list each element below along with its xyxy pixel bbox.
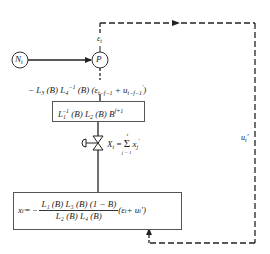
valve-eq: = xyxy=(114,139,124,149)
b2-numerator: L₁ (B) L₃ (B) (1 − B) xyxy=(39,200,118,211)
feedback-top-arrow-icon xyxy=(172,20,180,26)
ff-b2: (B) (ε xyxy=(75,85,98,95)
epsilon-subscript: t xyxy=(100,38,102,44)
u-prime: ′ xyxy=(247,133,249,142)
valve-equation: Xt = Σ t j = 1 xj′ xyxy=(107,138,139,150)
b2-tail-close: ′) xyxy=(141,206,146,215)
b1-b-sup: f+1 xyxy=(115,108,124,114)
valve-sigma: Σ xyxy=(124,137,130,149)
valve-sigma-upper: t xyxy=(127,132,128,137)
ff-plus: + u xyxy=(112,85,127,95)
valve-term-prime: ′ xyxy=(138,138,139,144)
b2-denominator: L₂ (B) L₄ (B) xyxy=(39,211,118,221)
node-n-subscript: t xyxy=(21,59,23,65)
controller-box: L1−1 (B) L2 (B) Bf+1 xyxy=(52,101,145,122)
ff-prefix: − L xyxy=(28,85,41,95)
b1-l1-sub: 1 xyxy=(63,114,66,120)
ff-u-sub: t−f−1 xyxy=(127,90,141,96)
b1-mid: (B) L xyxy=(69,109,90,119)
b2-eq: = − xyxy=(25,206,37,215)
node-n-label: Nt xyxy=(15,55,23,65)
process-box: xt′ = − L₁ (B) L₃ (B) (1 − B) L₂ (B) L₄ … xyxy=(13,192,182,230)
controller-equation: L1−1 (B) L2 (B) Bf+1 xyxy=(58,108,123,120)
ff-l4-sub: 4 xyxy=(65,90,68,96)
b2-fraction: L₁ (B) L₃ (B) (1 − B) L₂ (B) L₄ (B) xyxy=(39,200,118,221)
u-feedback-label: ut′ xyxy=(241,134,248,143)
b1-tail: (B) B xyxy=(93,109,115,119)
process-equation: xt′ = − L₁ (B) L₃ (B) (1 − B) L₂ (B) L₄ … xyxy=(18,200,146,221)
node-p-label: P xyxy=(96,55,102,64)
ff-b1: (B) L xyxy=(44,85,65,95)
valve-sigma-lower: j = 1 xyxy=(122,150,132,155)
epsilon-label: εt xyxy=(97,35,102,44)
ff-eps-sub: t−f−1 xyxy=(98,90,112,96)
node-p-symbol: P xyxy=(96,54,102,64)
feedforward-equation: − L3 (B) L4−1 (B) (εt−f−1 + ut−f−1′) xyxy=(28,84,146,96)
b2-tail-plus: + u xyxy=(126,206,139,215)
valve-term-sub: j xyxy=(136,144,138,150)
ff-close: ) xyxy=(143,85,146,95)
valve-icon xyxy=(82,136,103,150)
